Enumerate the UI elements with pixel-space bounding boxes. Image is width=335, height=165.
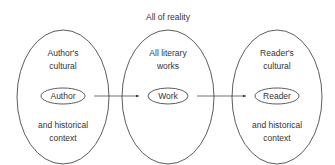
reader-context-bottom1: and historical: [252, 120, 302, 130]
reader-context-top2: cultural: [263, 61, 291, 71]
reader-node-label: Reader: [263, 91, 291, 101]
author-context-top2: cultural: [49, 61, 77, 71]
author-node-label: Author: [50, 91, 75, 101]
diagram: All of reality Author's cultural Author …: [0, 0, 335, 165]
work-node-label: Work: [158, 91, 178, 101]
literary-works-top1: All literary: [149, 48, 187, 58]
reader-context-top1: Reader's: [260, 48, 294, 58]
reader-context-bottom2: context: [263, 133, 291, 143]
author-context-top1: Author's: [48, 48, 79, 58]
author-context-bottom2: context: [49, 133, 77, 143]
title: All of reality: [146, 12, 191, 22]
literary-works-top2: works: [156, 61, 179, 71]
author-context-bottom1: and historical: [38, 120, 88, 130]
